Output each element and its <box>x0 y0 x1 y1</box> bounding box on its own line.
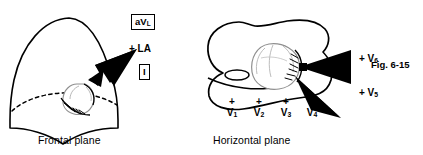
v4-subscript: 4 <box>313 111 317 118</box>
frontal-plane-illustration <box>0 8 200 148</box>
precordial-lead-v3: + V3 <box>276 97 296 118</box>
v5-base: + V <box>359 87 374 98</box>
v3-subscript: 3 <box>287 111 291 118</box>
la-label: + LA <box>129 44 151 54</box>
horizontal-plane-caption: Horizontal plane <box>213 135 290 146</box>
v5-label: + V5 <box>359 88 378 99</box>
avl-label: aVL <box>131 17 155 28</box>
avl-text: aV <box>135 16 147 27</box>
figure-number: Fig. 6-15 <box>371 60 410 70</box>
avl-box: aVL <box>131 14 155 30</box>
ecg-lead-planes-figure: aVL + LA I Frontal plane <box>0 0 423 155</box>
horizontal-plane-illustration <box>203 14 413 144</box>
precordial-lead-v2: + V2 <box>249 97 269 118</box>
avl-subscript: L <box>147 20 151 27</box>
v5-subscript: 5 <box>374 91 378 98</box>
precordial-lead-v4: + V4 <box>302 97 322 118</box>
precordial-lead-v1: + V1 <box>222 97 242 118</box>
vertebra-ellipse <box>225 70 249 80</box>
lead-one-box: I <box>139 64 150 80</box>
v2-subscript: 2 <box>260 111 264 118</box>
frontal-plane-caption: Frontal plane <box>38 135 101 146</box>
v1-subscript: 1 <box>233 111 237 118</box>
lead-one-label: I <box>139 62 150 78</box>
